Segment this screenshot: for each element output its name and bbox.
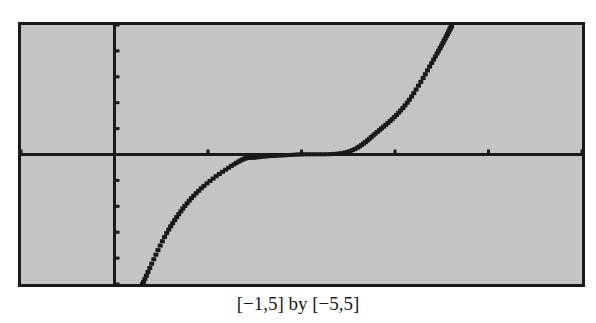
plot-area [21, 25, 582, 284]
graph-screen [18, 22, 585, 287]
window-caption: [−1,5] by [−5,5] [0, 293, 596, 315]
